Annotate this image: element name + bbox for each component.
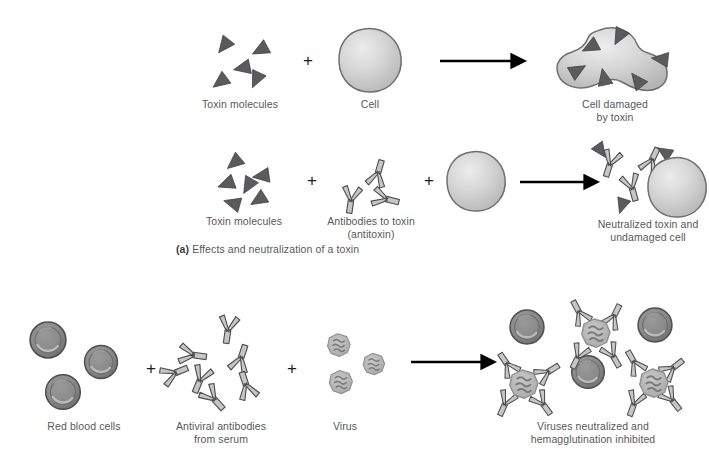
panel-b-antibody-group	[158, 314, 261, 416]
panel-a-row1-damaged-cell	[557, 26, 669, 90]
panel-a-row2-antibody-group	[339, 158, 401, 215]
label-cell-damaged-by-toxin: Cell damaged by toxin	[548, 98, 682, 124]
operator-plus-b-1: +	[146, 360, 156, 377]
label-cell: Cell	[322, 98, 418, 111]
panel-b-result	[491, 296, 689, 419]
label-toxin-molecules-row1: Toxin molecules	[172, 98, 308, 111]
panel-a-caption: (a) Effects and neutralization of a toxi…	[176, 243, 359, 255]
panel-a-caption-text: Effects and neutralization of a toxin	[189, 243, 359, 255]
label-neutralized-toxin-undamaged-cell: Neutralized toxin and undamaged cell	[586, 218, 709, 244]
panel-a-row2-cell	[447, 152, 505, 211]
panel-a-row1-cell	[339, 29, 401, 92]
label-antibodies-to-toxin: Antibodies to toxin (antitoxin)	[298, 215, 444, 241]
panel-a-row2-toxin-group	[215, 152, 270, 212]
operator-plus-a2-1: +	[307, 172, 317, 189]
operator-plus-b-2: +	[287, 360, 297, 377]
operator-plus-a1-1: +	[303, 52, 313, 69]
label-toxin-molecules-row2: Toxin molecules	[176, 215, 312, 228]
label-viruses-neutralized: Viruses neutralized and hemagglutination…	[489, 420, 697, 446]
panel-b-rbc-group	[30, 322, 117, 409]
label-red-blood-cells: Red blood cells	[10, 420, 158, 433]
label-virus: Virus	[308, 420, 382, 433]
immunology-figure: Toxin molecules + Cell Cell damaged by t…	[0, 0, 709, 456]
virus-antibody-complex-3	[619, 346, 688, 419]
panel-a-row1-toxin-group	[209, 35, 271, 93]
virus-antibody-complex-2	[491, 348, 564, 419]
panel-a-row2-result	[591, 141, 706, 217]
panel-a-caption-tag: (a)	[176, 243, 189, 255]
label-antiviral-antibodies-from-serum: Antiviral antibodies from serum	[146, 420, 296, 446]
operator-plus-a2-2: +	[424, 172, 434, 189]
panel-b-virus-group	[328, 334, 385, 394]
